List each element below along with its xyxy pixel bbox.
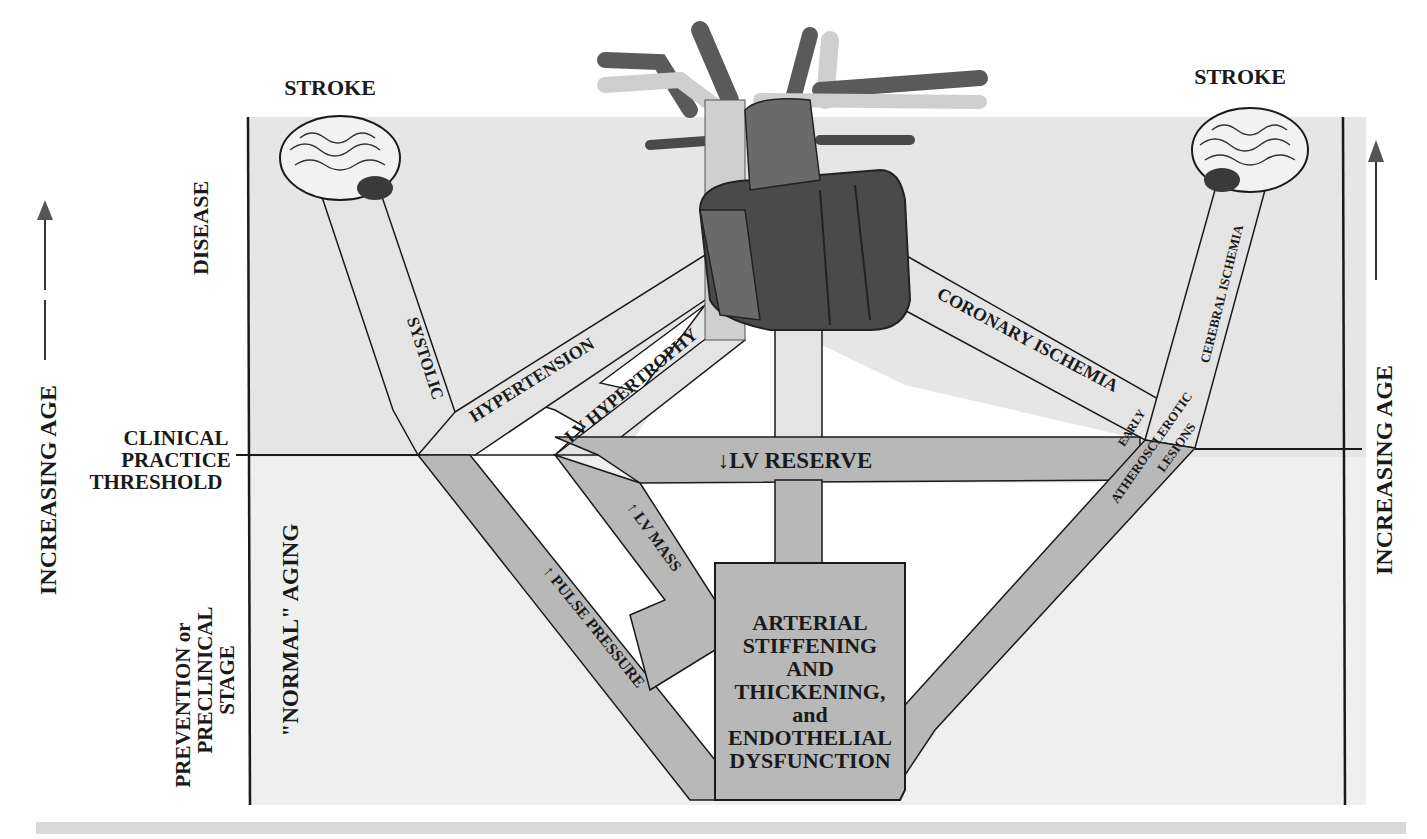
left-up-arrow-icon bbox=[37, 200, 53, 290]
heart-connector bbox=[775, 330, 822, 438]
normal-aging-label: "NORMAL" AGING bbox=[278, 524, 303, 737]
stroke-title-right: STROKE bbox=[1194, 64, 1286, 89]
prevention-label-line-3: STAGE bbox=[215, 645, 239, 715]
increasing-age-right: INCREASING AGE bbox=[1371, 365, 1397, 575]
right-up-arrow-icon bbox=[1368, 140, 1384, 280]
box-line-6: ENDOTHELIAL bbox=[728, 725, 892, 750]
threshold-label-line-1: CLINICAL bbox=[123, 426, 228, 450]
box-line-1: ARTERIAL bbox=[752, 610, 867, 635]
box-line-5: and bbox=[792, 702, 827, 727]
cardiovascular-aging-diagram: STROKE STROKE INCREASING AGE INCREASING … bbox=[0, 0, 1427, 839]
box-line-4: THICKENING, bbox=[735, 679, 886, 704]
stroke-title-left: STROKE bbox=[284, 75, 376, 100]
box-line-7: DYSFUNCTION bbox=[729, 748, 890, 773]
box-line-3: AND bbox=[786, 656, 834, 681]
threshold-label-line-2: PRACTICE bbox=[121, 448, 231, 472]
lv-reserve-label: ↓LV RESERVE bbox=[718, 448, 873, 473]
prevention-label-line-1: PREVENTION or bbox=[171, 622, 195, 787]
reserve-box-connector bbox=[775, 480, 822, 565]
bottom-band bbox=[36, 822, 1406, 834]
disease-label: DISEASE bbox=[188, 181, 213, 275]
box-line-2: STIFFENING bbox=[743, 633, 877, 658]
right-brain-icon bbox=[1192, 108, 1308, 192]
increasing-age-left: INCREASING AGE bbox=[35, 385, 61, 595]
left-brain-icon bbox=[280, 116, 400, 200]
prevention-label-line-2: PRECLINICAL bbox=[193, 606, 217, 753]
threshold-label-line-3: THRESHOLD bbox=[89, 470, 222, 494]
